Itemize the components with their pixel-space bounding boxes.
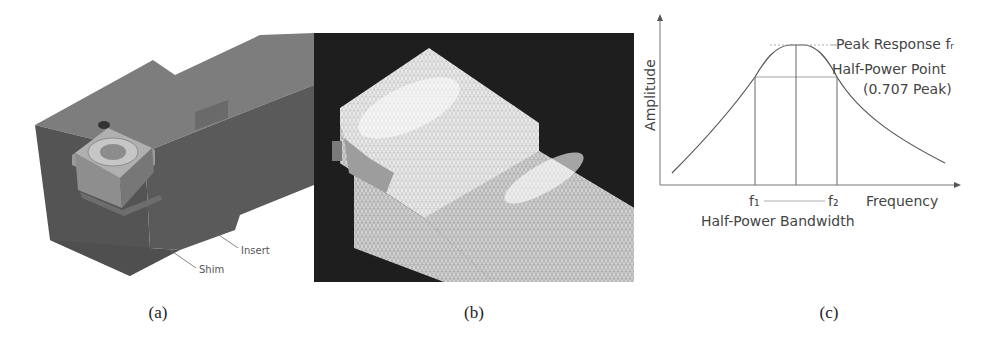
- caption-c: (c): [820, 303, 839, 323]
- shim-label: Shim: [199, 264, 224, 275]
- peak-response-label: Peak Response fᵣ: [836, 36, 954, 52]
- f1-label: f₁: [749, 193, 760, 209]
- panel-c-frequency-response-chart: Amplitude Peak Response fᵣ Half-Power Po…: [634, 0, 1008, 260]
- half-power-point-label: Half-Power Point: [832, 61, 946, 77]
- tool-holder-cad-illustration: Insert Shim: [0, 0, 314, 290]
- f2-label: f₂: [828, 193, 839, 209]
- caption-b: (b): [464, 303, 484, 323]
- fe-mesh-illustration: [314, 33, 634, 282]
- frequency-response-plot: Amplitude Peak Response fᵣ Half-Power Po…: [634, 0, 1008, 260]
- x-axis-label: Frequency: [866, 193, 938, 209]
- panel-b-fe-mesh: [314, 33, 634, 282]
- half-power-value-label: (0.707 Peak): [863, 81, 952, 97]
- shim-leader-line: [170, 250, 196, 268]
- y-axis-arrow-icon: [657, 14, 663, 21]
- insert-leader-line: [216, 233, 238, 248]
- y-axis-label: Amplitude: [642, 59, 658, 131]
- panel-a-cad-model: Insert Shim: [0, 0, 314, 290]
- bandwidth-label: Half-Power Bandwidth: [701, 213, 855, 229]
- caption-a: (a): [149, 303, 168, 323]
- x-axis-arrow-icon: [954, 182, 961, 188]
- insert-label: Insert: [241, 245, 270, 256]
